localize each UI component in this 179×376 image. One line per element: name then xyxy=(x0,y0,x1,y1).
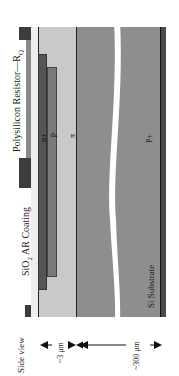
n-plus-label: n+ xyxy=(39,133,48,142)
side-view-label: Side view xyxy=(16,337,26,373)
pi-label: π xyxy=(68,134,77,138)
polysilicon-resistor-pad-bottom xyxy=(19,158,31,188)
si-substrate-label: Si Substrate xyxy=(146,265,156,308)
backside-contact xyxy=(160,27,166,317)
n-plus-layer xyxy=(38,54,47,290)
polysilicon-resistor-body xyxy=(26,38,31,162)
contact-pad xyxy=(25,305,31,317)
device-cross-section: Polysilicon Resistor—RQ SiO2 AR Coating … xyxy=(0,0,179,376)
break-line-icon xyxy=(100,20,130,325)
polysilicon-resistor-label: Polysilicon Resistor—RQ xyxy=(11,50,25,152)
p-plus-label: P+ xyxy=(145,134,154,143)
p-label: p xyxy=(48,133,57,137)
p-layer xyxy=(47,67,57,277)
dimension-arrow-300um-icon xyxy=(78,338,164,352)
dim-3um-label: ~3 μm xyxy=(56,342,65,363)
dim-300um-label: ~300 μm xyxy=(132,341,141,370)
polysilicon-resistor-pad-top xyxy=(19,27,31,40)
sio2-ar-coating-label: SiO2 AR Coating xyxy=(20,207,34,276)
